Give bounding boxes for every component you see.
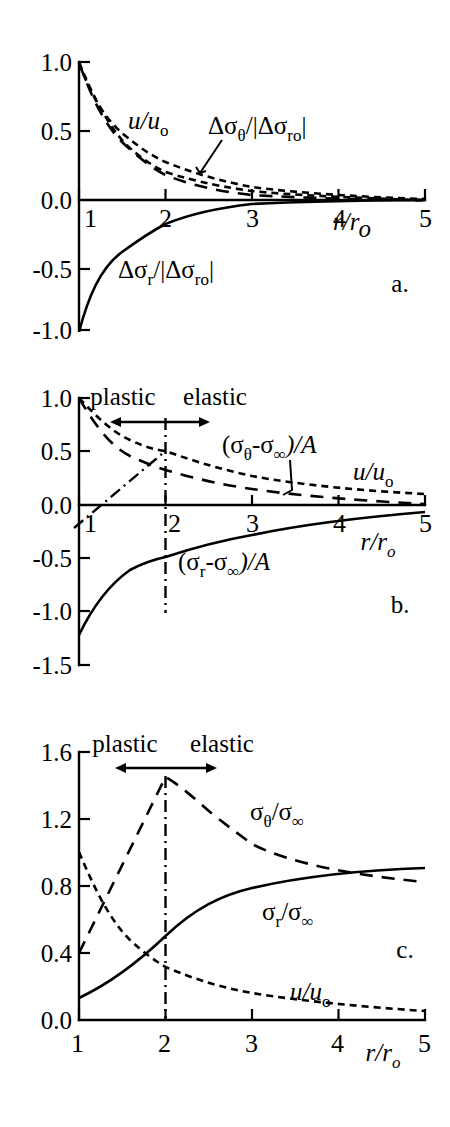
panel-c-label-u: u/uo: [290, 978, 330, 1011]
panel-c-label-sigma-theta: σθ/σ∞: [250, 798, 304, 831]
panel-b: 1.0 0.5 0.0 -0.5 -1.0 -1.5 1 2 3 4 5 r/r…: [0, 370, 450, 710]
panel-b-yticklabel-1: 0.5: [41, 438, 72, 465]
panel-a-xticklabel-2: 3: [246, 204, 259, 233]
panel-c-curve-sigma-r: [79, 868, 425, 998]
panel-c-xticklabel-3: 4: [331, 1029, 344, 1058]
panel-a-leader-sigma-theta: [200, 140, 222, 173]
panel-c-xticklabel-4: 5: [418, 1029, 431, 1058]
panel-b-zone-plastic: plastic: [90, 383, 155, 410]
panel-b-yticklabel-4: -1.0: [32, 598, 72, 625]
panel-b-xticklabel-3: 4: [333, 509, 346, 538]
panel-c-label-sigma-r: σr/σ∞: [262, 898, 314, 931]
panel-c-yticklabel-2: 0.8: [41, 873, 72, 900]
panel-c-xticklabel-0: 1: [71, 1029, 84, 1058]
panel-b-arrowhead-left: [110, 417, 121, 427]
panel-b-yticklabel-0: 1.0: [41, 385, 72, 412]
panel-c-arrowhead-right: [206, 763, 217, 773]
panel-a-xticklabel-1: 2: [159, 204, 172, 233]
panel-c-curve-u: [79, 852, 425, 1011]
panel-b-xaxis-label: r/ro: [361, 528, 396, 561]
panel-a: 1.0 0.5 0.0 -0.5 -1.0 1 2 3 4 5 r/ro u/u…: [0, 30, 450, 350]
panel-a-yticklabel-1: 0.5: [41, 118, 72, 145]
panel-c-xaxis-label: r/ro: [366, 1039, 401, 1072]
panel-a-xticklabel-4: 5: [419, 204, 432, 233]
panel-b-label-sigma-r: (σr-σ∞)/A: [178, 548, 271, 581]
panel-a-yticklabel-4: -1.0: [32, 317, 72, 344]
panel-b-yticklabel-5: -1.5: [32, 652, 72, 679]
panel-c-zone-elastic: elastic: [190, 730, 254, 757]
panel-a-label-sigma-theta: Δσθ/|Δσro|: [208, 112, 306, 145]
panel-a-label-u: u/uo: [128, 107, 168, 140]
panel-c-letter: c.: [396, 936, 413, 963]
panel-a-label-sigma-r: Δσr/|Δσro|: [118, 256, 214, 289]
panel-b-curve-plastic-branch: [74, 451, 166, 528]
panel-b-label-u: u/uo: [353, 458, 393, 491]
panel-b-arrowhead-right: [199, 417, 210, 427]
panel-c-yticklabel-4: 0.0: [41, 1007, 72, 1034]
panel-a-xaxis-label: r/ro: [333, 208, 371, 242]
panel-a-yticklabel-3: -0.5: [32, 256, 72, 283]
panel-c-yticklabel-3: 0.4: [41, 940, 73, 967]
panel-a-letter: a.: [391, 270, 408, 297]
panel-c-arrowhead-left: [115, 763, 126, 773]
panel-b-leader-sigma-theta: [283, 460, 292, 495]
panel-b-letter: b.: [391, 591, 410, 618]
panel-c-yticklabel-1: 1.2: [41, 806, 72, 833]
panel-a-yticklabel-2: 0.0: [41, 187, 72, 214]
panel-c-yticklabel-0: 1.6: [41, 739, 72, 766]
panel-b-xticklabel-0: 1: [84, 509, 97, 538]
panel-a-xticklabel-0: 1: [84, 204, 97, 233]
panel-c: 1.6 1.2 0.8 0.4 0.0 1 2 3 4 5 r/ro plast…: [0, 730, 450, 1075]
panel-b-zone-elastic: elastic: [183, 383, 247, 410]
figure-root: 1.0 0.5 0.0 -0.5 -1.0 1 2 3 4 5 r/ro u/u…: [0, 0, 450, 1127]
panel-a-yticklabel-0: 1.0: [41, 49, 72, 76]
panel-c-xticklabel-2: 3: [245, 1029, 258, 1058]
panel-c-xticklabel-1: 2: [158, 1029, 171, 1058]
panel-b-yticklabel-2: 0.0: [41, 492, 72, 519]
panel-b-yticklabel-3: -0.5: [32, 545, 72, 572]
panel-b-xticklabel-1: 2: [168, 509, 181, 538]
panel-c-zone-plastic: plastic: [92, 730, 157, 757]
panel-b-label-sigma-theta: (σθ-σ∞)/A: [222, 431, 317, 464]
